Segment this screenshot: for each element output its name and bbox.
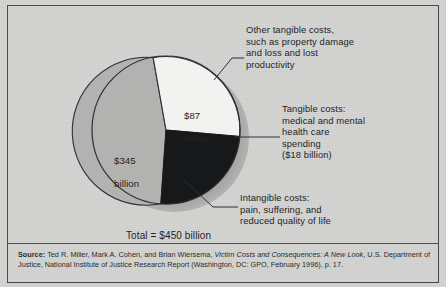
callout-intangible-costs: Intangible costs: pain, suffering, and r…: [240, 192, 440, 227]
slice-value-label-345-billion: $345 billion: [114, 144, 168, 201]
source-label: Source:: [18, 250, 45, 259]
source-title: Victim Costs and Consequences: A New Loo…: [215, 250, 364, 259]
callout-other-tangible-costs: Other tangible costs, such as property d…: [246, 24, 436, 70]
pie-chart: Other tangible costs, such as property d…: [8, 6, 438, 242]
callout-medical-mental-health-costs: Tangible costs: medical and mental healt…: [282, 103, 446, 161]
slice-value-87-line2: billion: [184, 133, 234, 144]
total-label: Total = $450 billion: [126, 230, 286, 242]
frame-border-bottom: [7, 282, 439, 283]
slice-value-345-line2: billion: [114, 178, 168, 189]
leader-line-other-tangible: [214, 58, 244, 80]
slice-value-87-line1: $87: [184, 110, 234, 121]
source-note: Source: Ted R. Miller, Mark A. Cohen, an…: [18, 250, 430, 269]
slice-value-345-line1: $345: [114, 155, 168, 166]
slice-value-label-87-billion: $87 billion: [184, 99, 234, 156]
source-authors: Ted R. Miller, Mark A. Cohen, and Brian …: [45, 250, 214, 259]
figure-panel: Other tangible costs, such as property d…: [0, 0, 446, 287]
source-divider-rule: [7, 243, 439, 244]
